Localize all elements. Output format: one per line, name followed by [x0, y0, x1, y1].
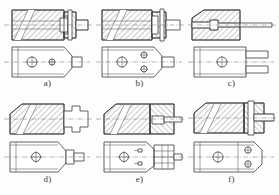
panel-e-drawing — [94, 98, 185, 178]
panel-b: b) — [94, 2, 185, 95]
panel-f: f) — [186, 98, 277, 193]
panel-b-section-view — [102, 9, 180, 41]
panel-f-drawing — [186, 98, 277, 178]
engineering-drawing-sheet: a) — [0, 0, 279, 195]
panel-a-drawing — [2, 2, 93, 82]
panel-a: a) — [2, 2, 93, 95]
panel-a-label: a) — [2, 78, 93, 88]
panel-e: e) — [94, 98, 185, 193]
panel-c-drawing — [186, 2, 277, 82]
panel-d-section-view — [10, 104, 88, 134]
panel-f-label: f) — [186, 174, 277, 184]
panel-d-label: d) — [2, 174, 93, 184]
panel-d: d) — [2, 98, 93, 193]
panel-c: c) — [186, 2, 277, 95]
panel-b-label: b) — [94, 78, 185, 88]
panel-c-label: c) — [186, 78, 277, 88]
panel-b-drawing — [94, 2, 185, 82]
panel-d-drawing — [2, 98, 93, 178]
panel-e-label: e) — [94, 174, 185, 184]
